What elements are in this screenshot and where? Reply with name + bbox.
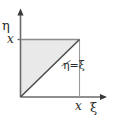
diagonal-label-equals: = (70, 59, 79, 72)
y-axis-tick-label: x (7, 33, 14, 45)
coordinate-diagram: η ξ x x η=ξ (0, 0, 113, 126)
vertical-axis-label: η (2, 19, 10, 32)
horizontal-axis-label: ξ (90, 101, 97, 114)
diagonal-label-xi: ξ (79, 59, 85, 72)
diagonal-equation-label: η=ξ (63, 60, 85, 71)
diagonal-label-eta: η (63, 59, 70, 72)
x-axis-tick-label: x (75, 100, 82, 112)
arrow-up-icon (17, 9, 23, 16)
arrow-right-icon (100, 94, 107, 100)
